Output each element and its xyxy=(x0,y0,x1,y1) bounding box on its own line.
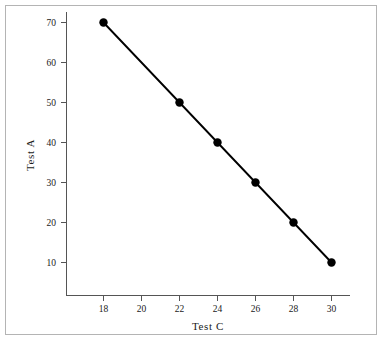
y-axis-title: Test A xyxy=(24,139,36,171)
y-tick-label: 50 xyxy=(47,98,57,108)
data-point-marker xyxy=(213,138,221,146)
y-tick-label: 30 xyxy=(47,178,57,188)
chart-figure: 10 20 30 40 50 60 70 18 20 22 24 26 28 3… xyxy=(0,0,383,343)
data-point-marker xyxy=(99,18,107,26)
x-axis-title: Test C xyxy=(192,320,224,332)
y-tick-label: 10 xyxy=(47,258,57,268)
x-tick-label: 28 xyxy=(289,304,299,314)
y-tick-label: 60 xyxy=(47,58,57,68)
data-point-marker xyxy=(251,178,259,186)
y-axis-tick-labels: 10 20 30 40 50 60 70 xyxy=(47,18,57,268)
line-chart-plot: 10 20 30 40 50 60 70 18 20 22 24 26 28 3… xyxy=(0,0,383,343)
x-tick-label: 22 xyxy=(175,304,185,314)
x-axis-ticks xyxy=(104,296,332,302)
x-tick-label: 18 xyxy=(99,304,109,314)
x-tick-label: 24 xyxy=(213,304,223,314)
y-tick-label: 70 xyxy=(47,18,57,28)
x-axis-tick-labels: 18 20 22 24 26 28 30 xyxy=(99,304,337,314)
x-tick-label: 26 xyxy=(251,304,261,314)
data-point-marker xyxy=(327,258,335,266)
y-tick-label: 40 xyxy=(47,138,57,148)
y-tick-label: 20 xyxy=(47,218,57,228)
x-tick-label: 30 xyxy=(327,304,337,314)
x-tick-label: 20 xyxy=(137,304,147,314)
y-axis-ticks xyxy=(61,23,67,263)
data-point-marker xyxy=(289,218,297,226)
data-point-marker xyxy=(175,98,183,106)
